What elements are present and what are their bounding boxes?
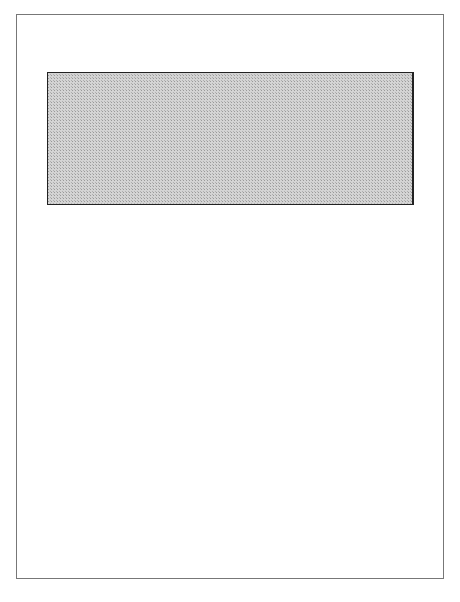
diagram-canvas bbox=[0, 0, 460, 602]
